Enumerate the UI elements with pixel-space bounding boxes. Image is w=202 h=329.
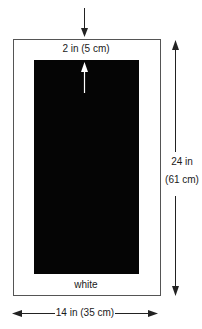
black-panel (34, 60, 139, 274)
white-label: white (0, 279, 172, 291)
top-margin-label: 2 in (5 cm) (0, 43, 172, 55)
width-label: 14 in (35 cm) (0, 307, 170, 319)
height-label: 24 in (61 cm) (162, 156, 202, 186)
width-label-text: 14 in (35 cm) (55, 307, 115, 318)
arrow-down-icon (81, 8, 88, 37)
height-label-in: 24 in (162, 156, 202, 168)
height-label-cm: (61 cm) (162, 174, 202, 186)
